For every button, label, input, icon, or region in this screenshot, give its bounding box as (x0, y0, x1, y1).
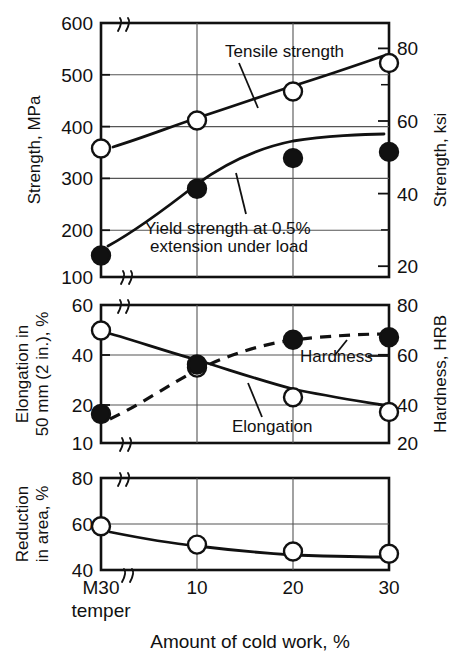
xtick-30: 30 (378, 577, 399, 598)
reduction-curve (110, 532, 389, 557)
strength-ytick-100: 100 (61, 267, 93, 288)
strength-ksi-tick-60: 60 (397, 111, 418, 132)
axis-break-symbol (118, 18, 129, 31)
elongation-ytick-40: 40 (72, 345, 93, 366)
reduction-axis-title-line2: in area, % (33, 486, 52, 563)
strength-axis-title-right: Strength, ksi (431, 113, 450, 208)
annotation-tensile-strength: Tensile strength (225, 42, 344, 61)
elongation-axis-title-line1: Elongation in (13, 325, 32, 423)
annotation-hardness: Hardness (300, 347, 373, 366)
reduction-ytick-60: 60 (72, 514, 93, 535)
tensile-strength-markers (92, 54, 398, 158)
elongation-markers (92, 322, 398, 422)
x-axis-title: Amount of cold work, % (150, 631, 350, 652)
axis-break-symbol (118, 300, 129, 313)
strength-ytick-200: 200 (61, 220, 93, 241)
figure-container: 600 500 400 300 200 100 80 60 40 20 Stre… (0, 0, 469, 662)
xtick-20: 20 (282, 577, 303, 598)
strength-ytick-400: 400 (61, 117, 93, 138)
reduction-ytick-80: 80 (72, 468, 93, 489)
xtick-10: 10 (186, 577, 207, 598)
panel-reduction: 80 60 40 Reduction in area, % (13, 468, 398, 582)
strength-ytick-500: 500 (61, 65, 93, 86)
hardness-tick-60: 60 (397, 345, 418, 366)
strength-ksi-tick-20: 20 (397, 256, 418, 277)
tensile-strength-curve (113, 56, 383, 147)
annotation-yield-line1: Yield strength at 0.5% (145, 219, 311, 238)
reduction-axis-title-line1: Reduction (13, 486, 32, 563)
axis-break-symbol (120, 438, 131, 451)
elongation-left-ticks (101, 355, 110, 405)
strength-axis-title-left: Strength, MPa (25, 95, 44, 204)
x-axis-labels: M30 10 20 30 temper (71, 577, 399, 621)
elongation-right-ticks (378, 355, 389, 405)
panel-elongation: 60 40 20 10 80 60 40 20 Elongation in 50… (13, 295, 450, 454)
panel-strength: 600 500 400 300 200 100 80 60 40 20 Stre… (25, 13, 450, 288)
strength-ytick-300: 300 (61, 168, 93, 189)
hardness-tick-20: 20 (397, 433, 418, 454)
chart-svg: 600 500 400 300 200 100 80 60 40 20 Stre… (0, 0, 469, 662)
elongation-ytick-10: 10 (72, 433, 93, 454)
hardness-axis-title-right: Hardness, HRB (431, 315, 450, 433)
axis-break-symbol (118, 473, 129, 486)
hardness-tick-80: 80 (397, 295, 418, 316)
annotation-yield-line2: extension under load (150, 237, 308, 256)
yield-leader-line (236, 173, 246, 214)
hardness-tick-40: 40 (397, 395, 418, 416)
xtick-temper-sublabel: temper (71, 600, 131, 621)
elongation-axis-title-line2: 50 mm (2 in.), % (33, 312, 52, 437)
strength-ksi-tick-40: 40 (397, 184, 418, 205)
annotation-elongation: Elongation (232, 417, 312, 436)
elongation-leader-line (248, 383, 262, 417)
elongation-ytick-60: 60 (72, 295, 93, 316)
elongation-ytick-20: 20 (72, 395, 93, 416)
xtick-m30: M30 (83, 577, 120, 598)
strength-ksi-tick-80: 80 (397, 38, 418, 59)
strength-ytick-600: 600 (61, 13, 93, 34)
